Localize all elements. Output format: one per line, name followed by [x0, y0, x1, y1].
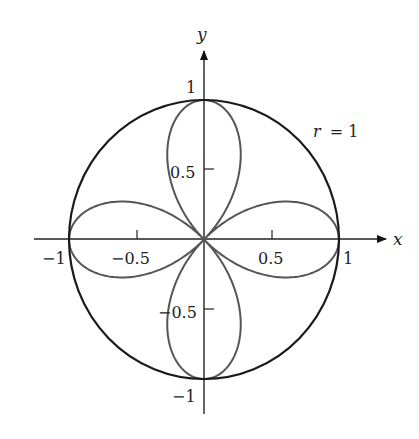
y-tick-label: 0.5: [170, 163, 195, 182]
annotation-eq: = 1: [330, 122, 359, 141]
y-axis-label: y: [196, 24, 207, 44]
x-tick-label: −1: [42, 249, 66, 268]
x-tick-label: −0.5: [111, 249, 150, 268]
circle-annotation: r = 1: [313, 122, 358, 141]
x-tick-label: 0.5: [258, 249, 283, 268]
annotation-r: r: [313, 122, 322, 141]
y-tick-label: 1: [186, 78, 196, 97]
y-tick-label: −0.5: [158, 303, 197, 322]
polar-rose-chart: x y −1 −0.5 0.5 1 1 0.5 −0.5 −1 r = 1: [0, 0, 419, 439]
x-axis-label: x: [393, 229, 403, 249]
y-tick-label: −1: [172, 387, 196, 406]
x-tick-label: 1: [343, 249, 353, 268]
